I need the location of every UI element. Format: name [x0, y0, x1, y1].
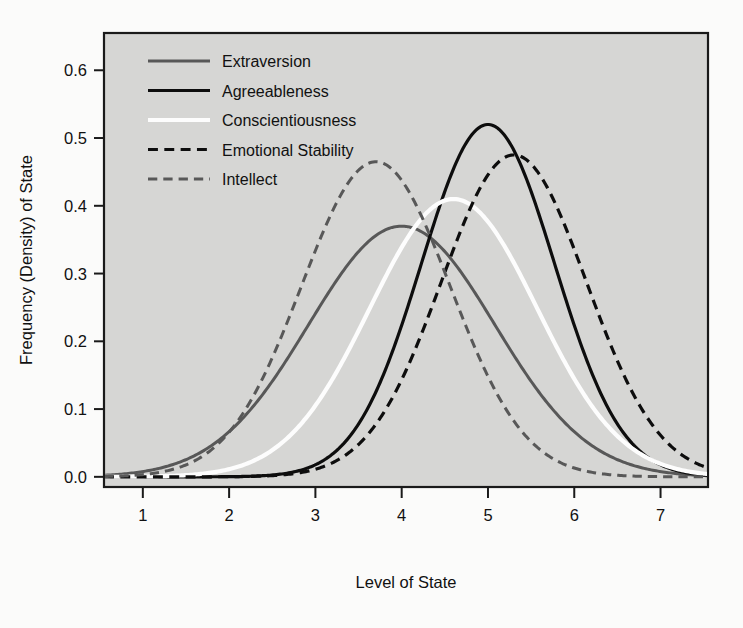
x-tick-label: 3	[311, 506, 320, 524]
x-tick-label: 5	[483, 506, 492, 524]
x-tick-label: 6	[570, 506, 579, 524]
y-tick-label: 0.5	[64, 129, 87, 147]
density-plot: 0.00.10.20.30.40.50.6 1234567 Extraversi…	[0, 0, 743, 628]
y-tick-label: 0.4	[64, 197, 87, 215]
y-tick-label: 0.6	[64, 61, 87, 79]
x-tick-label: 7	[656, 506, 665, 524]
legend-label: Emotional Stability	[222, 142, 354, 159]
y-axis-ticks: 0.00.10.20.30.40.50.6	[64, 61, 104, 486]
y-tick-label: 0.3	[64, 265, 87, 283]
y-tick-label: 0.1	[64, 400, 87, 418]
x-tick-label: 2	[225, 506, 234, 524]
x-tick-label: 1	[138, 506, 147, 524]
legend-label: Agreeableness	[222, 83, 329, 100]
x-tick-label: 4	[397, 506, 406, 524]
y-tick-label: 0.2	[64, 332, 87, 350]
plot-background	[104, 33, 708, 487]
legend-label: Conscientiousness	[222, 112, 356, 129]
x-axis-label: Level of State	[356, 573, 457, 591]
legend-label: Extraversion	[222, 53, 311, 70]
legend-label: Intellect	[222, 171, 278, 188]
y-tick-label: 0.0	[64, 468, 87, 486]
figure-container: 0.00.10.20.30.40.50.6 1234567 Extraversi…	[0, 0, 743, 628]
y-axis-label: Frequency (Density) of State	[17, 155, 35, 365]
x-axis-ticks: 1234567	[138, 487, 665, 524]
